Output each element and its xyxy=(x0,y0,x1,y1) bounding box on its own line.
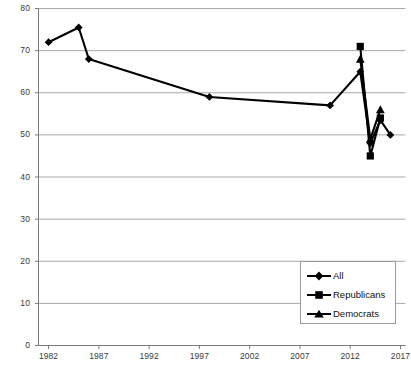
x-tick-label: 2002 xyxy=(230,352,270,361)
y-tick-label: 30 xyxy=(4,215,30,224)
legend-item-republicans[interactable]: Republicans xyxy=(301,285,395,304)
y-tick-label: 70 xyxy=(4,46,30,55)
y-tick-label: 40 xyxy=(4,173,30,182)
y-tick-label: 20 xyxy=(4,257,30,266)
chart-container: 01020304050607080 1982198719921997200220… xyxy=(0,0,411,367)
y-tick-label: 0 xyxy=(4,341,30,350)
y-tick-label: 50 xyxy=(4,130,30,139)
legend-item-all[interactable]: All xyxy=(301,266,395,285)
x-tick-label: 1997 xyxy=(179,352,219,361)
y-tick-label: 60 xyxy=(4,88,30,97)
x-tick-label: 1992 xyxy=(129,352,169,361)
x-tick-label: 1982 xyxy=(29,352,69,361)
chart-legend: All Republicans Democrats xyxy=(300,261,396,324)
x-tick-label: 1987 xyxy=(79,352,119,361)
legend-label-democrats: Democrats xyxy=(333,309,379,319)
x-tick-label: 2012 xyxy=(330,352,370,361)
x-tick-label: 2017 xyxy=(380,352,411,361)
diamond-marker-icon xyxy=(306,270,332,282)
legend-label-republicans: Republicans xyxy=(333,290,385,300)
legend-item-democrats[interactable]: Democrats xyxy=(301,304,395,323)
x-tick-label: 2007 xyxy=(280,352,320,361)
y-tick-label: 10 xyxy=(4,299,30,308)
legend-label-all: All xyxy=(333,271,344,281)
y-tick-label: 80 xyxy=(4,4,30,13)
square-marker-icon xyxy=(306,289,332,301)
triangle-marker-icon xyxy=(306,308,332,320)
